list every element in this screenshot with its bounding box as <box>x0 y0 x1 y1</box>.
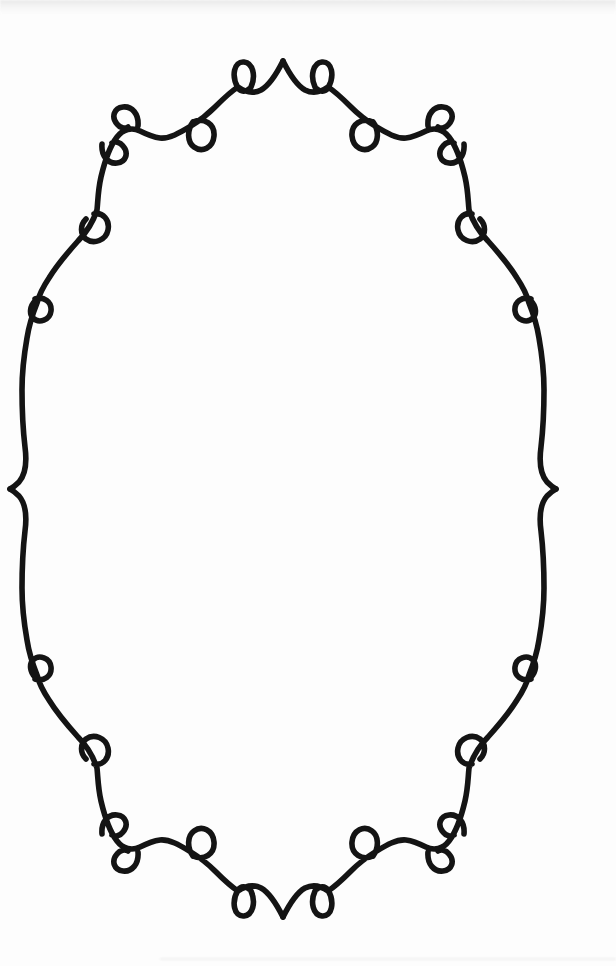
frame-quadrant-top-left <box>10 61 283 489</box>
frame-quadrant-bottom-right <box>283 489 556 917</box>
page <box>0 0 616 966</box>
frame-quadrant-top-right <box>283 61 556 489</box>
scan-artifact-bottom-streak <box>160 958 616 960</box>
frame-stroke-group <box>10 61 556 917</box>
frame-quadrant-bottom-left <box>10 489 283 917</box>
ornamental-frame-svg <box>0 0 616 966</box>
